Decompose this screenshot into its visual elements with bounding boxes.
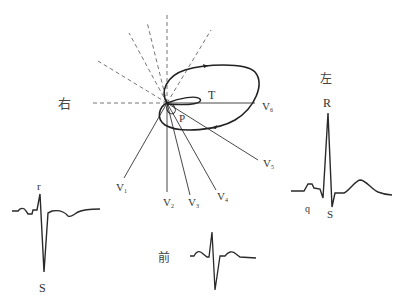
svg-text:3: 3 <box>196 203 199 209</box>
svg-text:5: 5 <box>271 164 274 170</box>
lead-label-v3: V 3 <box>188 196 199 209</box>
ecg-trace-rs <box>12 194 100 272</box>
svg-text:2: 2 <box>171 203 174 209</box>
ecg-trace-qrs <box>291 113 392 207</box>
lead-line-v1 <box>124 103 167 178</box>
label-t-loop: T <box>208 88 216 102</box>
dashed-axis-2 <box>129 33 167 103</box>
dashed-axes <box>90 14 211 103</box>
ecg-complex-anterior: 前 <box>158 232 256 290</box>
svg-text:V: V <box>116 181 124 193</box>
vectorcardiogram-diagram: 右 T P V 6 V 5 V 4 V 3 V 2 V 1 r S 左 R q … <box>0 0 400 307</box>
ecg-complex-rs: r S <box>12 180 100 295</box>
label-s-deep: S <box>39 281 46 295</box>
label-r-small: r <box>37 180 41 192</box>
ecg-trace-anterior <box>190 232 256 290</box>
lead-line-v4 <box>167 103 216 190</box>
label-r-tall: R <box>323 96 331 110</box>
lead-label-v1: V 1 <box>116 181 127 194</box>
svg-text:4: 4 <box>225 197 228 203</box>
svg-text:V: V <box>163 196 171 208</box>
lead-label-v4: V 4 <box>217 190 228 203</box>
svg-text:6: 6 <box>270 107 273 113</box>
lead-label-v6: V 6 <box>262 100 273 113</box>
t-loop <box>167 97 200 104</box>
lead-lines <box>124 103 258 195</box>
label-q: q <box>305 203 310 214</box>
label-left: 左 <box>320 71 332 86</box>
lead-label-v2: V 2 <box>163 196 174 209</box>
dashed-axis-3 <box>98 61 167 103</box>
qrs-arrow-top <box>203 64 208 68</box>
label-p-loop: P <box>179 112 185 124</box>
svg-text:V: V <box>263 157 271 169</box>
label-anterior: 前 <box>158 250 170 265</box>
svg-text:1: 1 <box>124 188 127 194</box>
label-right: 右 <box>58 96 71 111</box>
lead-label-v5: V 5 <box>263 157 274 170</box>
ecg-complex-qrs: 左 R q S <box>291 71 392 220</box>
svg-text:V: V <box>217 190 225 202</box>
svg-text:V: V <box>188 196 196 208</box>
label-s: S <box>327 208 333 220</box>
svg-text:V: V <box>262 100 270 112</box>
